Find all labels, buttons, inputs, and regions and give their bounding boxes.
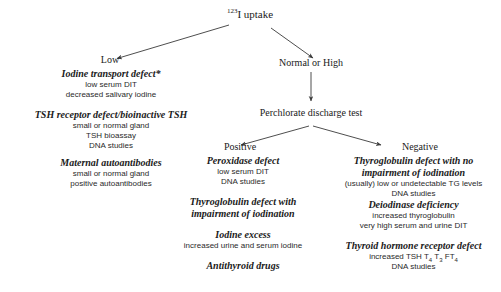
dx-iodine-excess: Iodine excess increased urine and serum … (168, 229, 318, 251)
dx-thyroid-hormone-receptor-defect: Thyroid hormone receptor defect increase… (326, 240, 501, 272)
isotope-superscript: 123 (227, 7, 238, 15)
negative-branch-column: Thyroglobulin defect with no impairment … (326, 155, 501, 272)
dx-detail: DNA studies (326, 189, 501, 199)
dx-detail: DNA studies (0, 141, 222, 151)
branch-label-negative: Negative (390, 141, 450, 153)
diagram-title: 123I uptake (200, 8, 300, 21)
arrow-test-to-negative (313, 126, 381, 145)
dx-detail: increased urine and serum iodine (168, 241, 318, 251)
dx-thyroglobulin-defect-no-impairment: Thyroglobulin defect with no impairment … (326, 155, 501, 199)
dx-peroxidase-defect: Peroxidase defect low serum DIT DNA stud… (168, 155, 318, 187)
dx-tsh-receptor-defect: TSH receptor defect/bioinactive TSH smal… (0, 109, 222, 151)
dx-antithyroid-drugs: Antithyroid drugs (168, 260, 318, 272)
dx-detail: low serum DIT (0, 80, 222, 90)
dx-detail: TSH bioassay (0, 131, 222, 141)
arrow-uptake-to-normal-high (271, 28, 313, 58)
branch-label-low: Low (80, 54, 140, 66)
spacer (168, 251, 318, 260)
dx-name: impairment of iodination (326, 167, 501, 179)
dx-name: Deiodinase deficiency (326, 199, 501, 211)
spacer (326, 231, 501, 240)
dx-thyroglobulin-defect-with-impairment: Thyroglobulin defect with impairment of … (168, 196, 318, 220)
dx-detail: increased TSH T4 T3 FT4 (326, 252, 501, 262)
spacer (0, 100, 222, 109)
dx-detail: increased thyroglobulin (326, 211, 501, 221)
branch-label-normal-high: Normal or High (261, 57, 361, 69)
dx-name: impairment of iodination (168, 208, 318, 220)
dx-detail: low serum DIT (168, 167, 318, 177)
positive-branch-column: Peroxidase defect low serum DIT DNA stud… (168, 155, 318, 272)
dx-name: Thyroid hormone receptor defect (326, 240, 501, 252)
title-text: I uptake (237, 8, 273, 20)
diagram-canvas: 123I uptake Low Normal or High Perchlora… (0, 0, 501, 292)
dx-name: Iodine excess (168, 229, 318, 241)
dx-detail: DNA studies (168, 177, 318, 187)
dx-detail: decreased salivary iodine (0, 90, 222, 100)
dx-name: Antithyroid drugs (168, 260, 318, 272)
dx-deiodinase-deficiency: Deiodinase deficiency increased thyroglo… (326, 199, 501, 231)
dx-name: Thyroglobulin defect with no (326, 155, 501, 167)
dx-name: Peroxidase defect (168, 155, 318, 167)
dx-detail: small or normal gland (0, 121, 222, 131)
node-perchlorate-discharge-test: Perchlorate discharge test (231, 107, 391, 119)
dx-detail: very high serum and urine DIT (326, 221, 501, 231)
spacer (168, 220, 318, 229)
dx-iodine-transport-defect: Iodine transport defect* low serum DIT d… (0, 68, 222, 100)
dx-name: Thyroglobulin defect with (168, 196, 318, 208)
dx-detail: (usually) low or undetectable TG levels (326, 179, 501, 189)
spacer (168, 187, 318, 196)
dx-name: Iodine transport defect* (0, 68, 222, 80)
dx-detail: DNA studies (326, 262, 501, 272)
dx-name: TSH receptor defect/bioinactive TSH (0, 109, 222, 121)
